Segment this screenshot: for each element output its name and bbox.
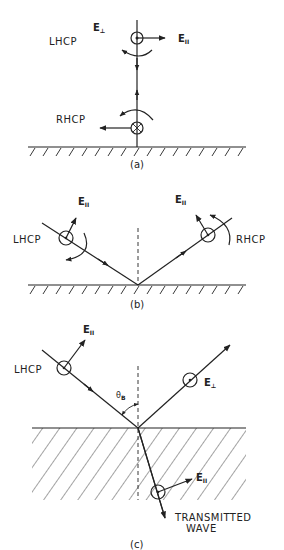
- caption-c: (c): [130, 539, 143, 550]
- incident-direction-arrow: [98, 259, 108, 266]
- e-par-incident-arrow: [64, 340, 85, 368]
- caption-a: (a): [130, 159, 144, 170]
- ground-hatching: [30, 286, 243, 294]
- brewster-angle-label: θB: [116, 391, 126, 401]
- incident-direction-arrow: [84, 384, 93, 392]
- polarization-reflection-figure: E⊥ EII LHCP RHCP (a): [0, 0, 284, 550]
- e-par-incident-label: EII: [83, 324, 94, 336]
- lhcp-label: LHCP: [49, 36, 77, 47]
- rhcp-label: RHCP: [56, 114, 85, 125]
- transmitted-wave-label-line2: WAVE: [186, 523, 217, 534]
- transmitted-wave-label-line1: TRANSMITTED: [174, 512, 251, 523]
- lhcp-rotation-arrow: [66, 233, 87, 260]
- reflected-direction-arrow: [176, 251, 186, 258]
- e-perp-reflected-label: E⊥: [204, 377, 216, 389]
- e-par-reflected-label: EII: [175, 194, 186, 206]
- panel-c: EII LHCP θB E⊥ EII TRANSMITTED WAVE (c): [14, 324, 251, 550]
- e-par-incident-arrow: [66, 218, 76, 238]
- caption-b: (b): [130, 299, 144, 310]
- incident-ray: [42, 223, 138, 285]
- brewster-angle-arc: [122, 404, 138, 415]
- panel-b: EII LHCP EII RHCP (b): [13, 194, 265, 310]
- dielectric-medium: [32, 428, 246, 500]
- panel-a: E⊥ EII LHCP RHCP (a): [28, 20, 246, 170]
- e-perp-label: E⊥: [93, 22, 105, 34]
- e-par-incident-label: EII: [78, 196, 89, 208]
- rhcp-label: RHCP: [236, 234, 265, 245]
- e-par-label: EII: [178, 33, 189, 45]
- lhcp-label: LHCP: [14, 364, 42, 375]
- lhcp-label: LHCP: [13, 234, 41, 245]
- ground-hatching: [30, 148, 243, 156]
